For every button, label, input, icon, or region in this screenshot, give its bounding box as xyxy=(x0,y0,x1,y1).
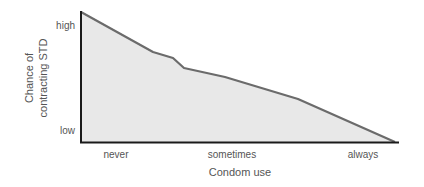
x-tick-sometimes: sometimes xyxy=(208,149,256,160)
y-tick-low: low xyxy=(60,125,76,136)
chart: high low Chance of contracting STD never… xyxy=(0,0,424,187)
y-axis-label-line2: contracting STD xyxy=(37,39,49,118)
y-tick-high: high xyxy=(56,20,75,31)
area-fill xyxy=(81,12,395,142)
x-axis-label: Condom use xyxy=(209,166,271,178)
x-tick-never: never xyxy=(103,149,129,160)
y-axis-label-line1: Chance of xyxy=(23,52,35,103)
x-tick-always: always xyxy=(348,149,379,160)
